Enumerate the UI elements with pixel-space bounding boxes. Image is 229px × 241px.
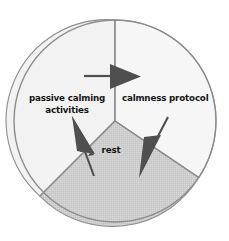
sector-label-rest: rest: [94, 144, 129, 156]
sector-label-calmness-protocol: calmness protocol: [122, 92, 212, 104]
pie-chart-graphic: [0, 0, 229, 241]
sector-label-passive-calming-activities: passive calming activities: [27, 92, 106, 115]
pie-sector-diagram: passive calming activities calmness prot…: [0, 0, 229, 241]
